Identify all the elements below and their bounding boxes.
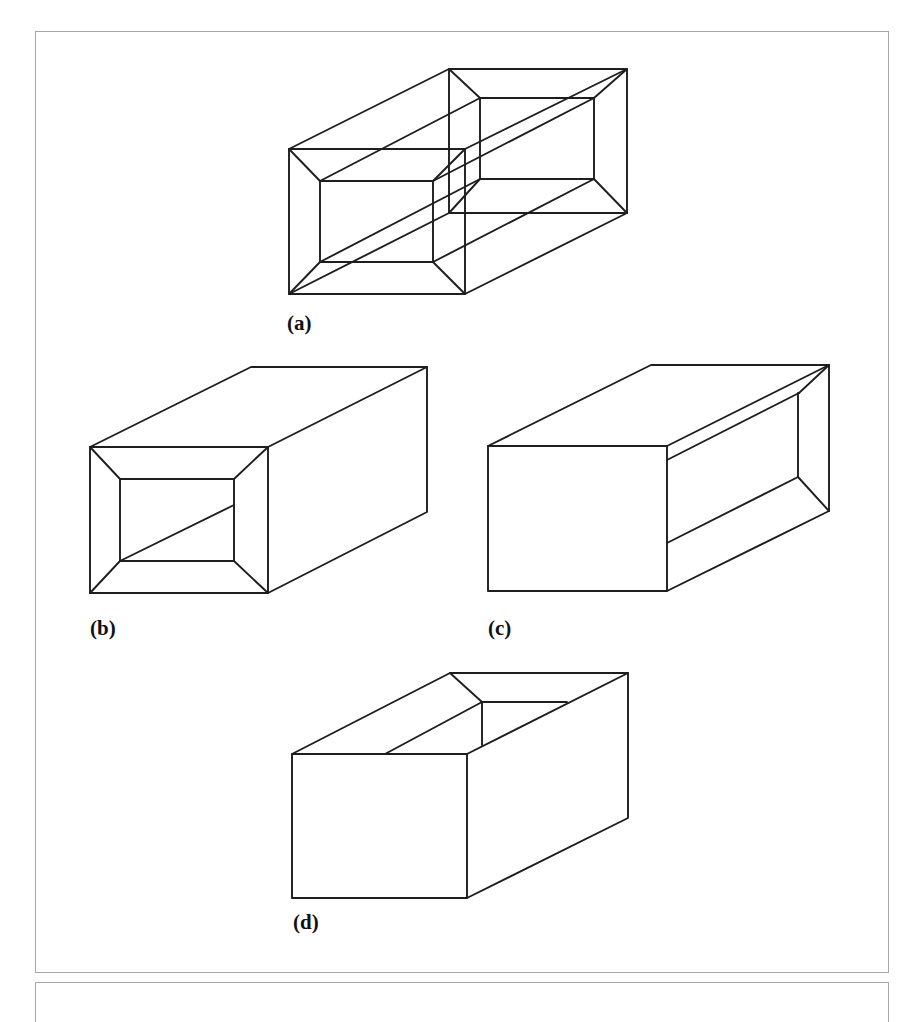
c-front-face	[488, 446, 667, 591]
a-outer-front-face	[289, 149, 465, 294]
panel-c-label: (c)	[488, 618, 511, 639]
panel-c-drawing	[488, 365, 829, 591]
panel-a-label: (a)	[287, 313, 312, 334]
a-inner-back-face	[480, 98, 594, 179]
panel-b-label: (b)	[90, 618, 116, 639]
panel-d-label: (d)	[293, 912, 319, 933]
b-opening	[120, 479, 234, 561]
d-front-face	[292, 754, 467, 898]
b-front-face	[90, 447, 268, 593]
panel-a-drawing	[289, 69, 627, 294]
panel-d-drawing	[292, 673, 628, 898]
a-outer-back-face	[449, 69, 627, 213]
panel-b-drawing	[90, 367, 427, 593]
